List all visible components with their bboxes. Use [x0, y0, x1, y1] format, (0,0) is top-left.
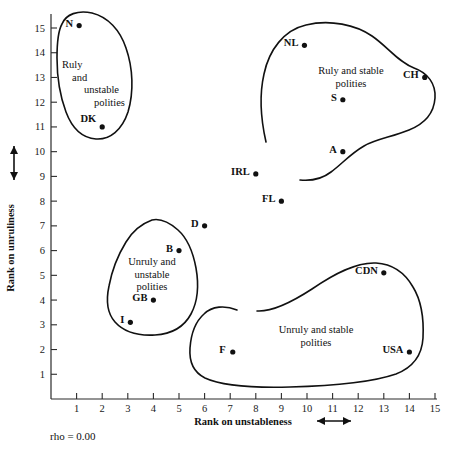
x-tick-label: 13	[379, 403, 390, 414]
x-tick-label: 2	[100, 403, 105, 414]
data-point-marker	[176, 248, 181, 253]
data-point-marker	[340, 149, 345, 154]
cluster-label-unruly-unstable: Unruly andunstablepolities	[128, 256, 176, 292]
data-point[interactable]: N	[66, 18, 82, 29]
data-point-label: N	[66, 18, 74, 29]
data-point[interactable]: GB	[132, 292, 156, 303]
data-point[interactable]: FL	[262, 193, 284, 204]
data-point[interactable]: A	[329, 144, 345, 155]
rho-annotation: rho = 0.00	[50, 430, 96, 442]
cluster-label-unruly-stable: Unruly and stablepolities	[279, 324, 354, 348]
x-axis-ticks: 123456789101112131415	[74, 393, 440, 414]
data-point-marker	[202, 223, 207, 228]
cluster-label-line: Ruly and stable	[318, 65, 384, 76]
data-point-marker	[151, 297, 156, 302]
y-axis-ticks: 123456789101112131415	[35, 23, 58, 380]
x-tick-label: 9	[279, 403, 284, 414]
x-tick-label: 3	[125, 403, 130, 414]
data-point-label: CH	[403, 69, 419, 80]
y-tick-label: 10	[35, 146, 46, 157]
y-tick-label: 2	[40, 344, 45, 355]
x-tick-label: 10	[302, 403, 313, 414]
y-tick-label: 13	[35, 72, 46, 83]
data-point-label: I	[120, 314, 124, 325]
data-point[interactable]: NL	[284, 37, 307, 48]
data-point-label: FL	[262, 193, 275, 204]
data-point[interactable]: B	[166, 243, 182, 254]
data-point-label: NL	[284, 37, 299, 48]
y-tick-label: 3	[40, 319, 45, 330]
plot-canvas: 123456789101112131415 123456789101112131…	[0, 0, 450, 454]
x-tick-label: 15	[430, 403, 441, 414]
data-point-label: DK	[80, 113, 97, 124]
scatter-chart: 123456789101112131415 123456789101112131…	[0, 0, 450, 454]
y-axis-direction-arrow	[10, 146, 18, 180]
cluster-label-line: unstable	[84, 84, 119, 95]
x-tick-label: 12	[353, 403, 364, 414]
x-tick-label: 4	[151, 403, 157, 414]
cluster-label-line: polities	[137, 281, 168, 292]
x-tick-label: 11	[328, 403, 338, 414]
data-point-label: IRL	[231, 166, 250, 177]
data-point-label: A	[329, 144, 337, 155]
data-point-marker	[253, 171, 258, 176]
data-point[interactable]: USA	[382, 344, 412, 355]
x-tick-label: 6	[202, 403, 207, 414]
x-tick-label: 7	[228, 403, 233, 414]
cluster-label-line: polities	[301, 337, 332, 348]
data-point-label: USA	[382, 344, 403, 355]
y-tick-label: 15	[35, 23, 46, 34]
data-point-marker	[230, 349, 235, 354]
y-tick-label: 8	[40, 196, 45, 207]
data-point[interactable]: CDN	[355, 265, 386, 276]
x-tick-label: 1	[74, 403, 79, 414]
cluster-label-line: Unruly and	[128, 256, 176, 267]
y-tick-label: 4	[40, 295, 46, 306]
y-tick-label: 9	[40, 171, 45, 182]
x-tick-label: 8	[253, 403, 258, 414]
cluster-label-line: and	[72, 72, 88, 83]
data-point-marker	[407, 349, 412, 354]
cluster-label-ruly-unstable: Rulyandunstablepolities	[62, 59, 125, 108]
data-point-marker	[279, 199, 284, 204]
data-point[interactable]: F	[219, 344, 235, 355]
data-point-marker	[100, 124, 105, 129]
data-point[interactable]: DK	[80, 113, 104, 130]
x-tick-label: 5	[176, 403, 181, 414]
data-point-label: F	[219, 344, 225, 355]
y-tick-label: 11	[35, 121, 45, 132]
data-point-marker	[77, 23, 82, 28]
y-axis-title: Rank on unruliness	[5, 204, 16, 292]
data-point-label: CDN	[355, 265, 378, 276]
data-point-label: B	[166, 243, 173, 254]
x-axis-title: Rank on unstableness	[194, 416, 291, 427]
x-tick-label: 14	[404, 403, 415, 414]
cluster-label-line: polities	[336, 78, 367, 89]
data-point-marker	[128, 320, 133, 325]
y-tick-label: 5	[40, 270, 45, 281]
data-point[interactable]: IRL	[231, 166, 258, 177]
y-tick-label: 7	[40, 220, 45, 231]
data-point[interactable]: S	[331, 92, 345, 103]
y-tick-label: 12	[35, 97, 46, 108]
cluster-label-line: unstable	[135, 269, 170, 280]
data-point-label: GB	[132, 292, 147, 303]
cluster-label-line: Unruly and stable	[279, 324, 354, 335]
data-point-label: S	[331, 92, 337, 103]
data-point[interactable]: CH	[403, 69, 427, 80]
data-point-marker	[340, 97, 345, 102]
data-point-marker	[422, 75, 427, 80]
data-point-marker	[381, 270, 386, 275]
cluster-label-line: Ruly	[62, 59, 83, 70]
data-point[interactable]: I	[120, 314, 133, 325]
data-point-label: D	[191, 218, 199, 229]
y-tick-label: 6	[40, 245, 45, 256]
cluster-label-line: polities	[94, 97, 125, 108]
data-point-marker	[302, 43, 307, 48]
x-axis-direction-arrow	[317, 417, 351, 425]
cluster-label-ruly-stable: Ruly and stablepolities	[318, 65, 384, 89]
y-tick-label: 1	[40, 369, 45, 380]
y-tick-label: 14	[35, 47, 46, 58]
data-point[interactable]: D	[191, 218, 207, 229]
